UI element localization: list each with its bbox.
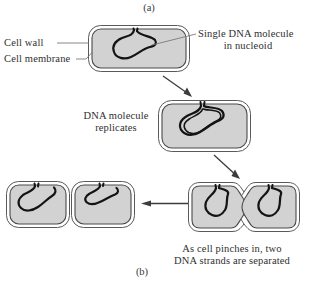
replicated-cell [159, 101, 251, 152]
arrow-parent-to-replicated [163, 76, 192, 97]
replicated-cell-membrane [162, 104, 247, 148]
bacterial-binary-fission-figure: (a) [0, 0, 311, 283]
label-dna-replicates-line2: replicates [74, 122, 158, 134]
dividing-cell [189, 183, 300, 232]
label-single-dna-line2: in nucleoid [198, 40, 298, 52]
label-cell-membrane: Cell membrane [4, 53, 70, 65]
daughter-cell-left [7, 182, 70, 228]
panel-label-b: (b) [122, 266, 162, 277]
label-pinches-line1: As cell pinches in, two [158, 243, 306, 255]
daughter-cell-right-membrane [75, 185, 131, 224]
label-cell-wall: Cell wall [4, 37, 44, 49]
parent-cell [89, 26, 190, 72]
daughter-cell-right [72, 182, 135, 228]
arrow-dividing-to-daughters [141, 201, 188, 207]
label-dna-replicates-line1: DNA molecule [74, 110, 158, 122]
dividing-cell-membrane-right [242, 186, 296, 228]
label-pinches-line2: DNA strands are separated [158, 255, 306, 267]
dividing-cell-membrane-left [192, 186, 246, 228]
arrow-replicated-to-dividing [214, 155, 240, 179]
parent-cell-membrane [92, 29, 186, 68]
label-single-dna-line1: Single DNA molecule [198, 28, 310, 40]
